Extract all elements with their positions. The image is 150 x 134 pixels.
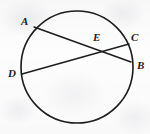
point-label-a: A <box>21 16 28 27</box>
point-label-d: D <box>8 68 16 79</box>
point-label-c: C <box>131 32 138 43</box>
geometry-figure: A C E B D <box>0 0 150 134</box>
point-label-b: B <box>137 60 144 71</box>
chord-dc <box>22 44 129 74</box>
point-label-e: E <box>93 32 100 43</box>
